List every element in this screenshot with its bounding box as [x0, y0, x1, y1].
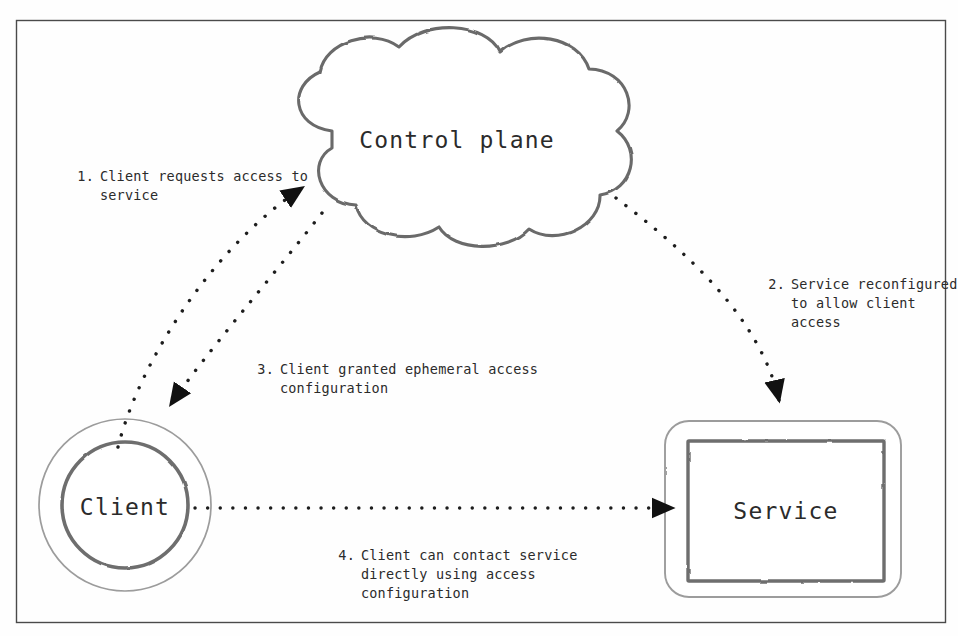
step-1-text: Client requests access to service [94, 167, 308, 205]
step-2-number: 2. [768, 275, 785, 294]
step-4-number: 4. [338, 546, 355, 565]
step-1-number: 1. [77, 167, 94, 186]
node-service: Service [665, 421, 901, 597]
step-4-text: Client can contact service directly usin… [355, 546, 578, 603]
step-2-label: 2.Service reconfigured to allow client a… [735, 256, 958, 351]
client-label: Client [80, 494, 170, 520]
step-3-number: 3. [257, 360, 274, 379]
step-3-text: Client granted ephemeral access configur… [274, 360, 538, 398]
step-2-text: Service reconfigured to allow client acc… [785, 275, 958, 332]
node-client: Client [39, 419, 211, 591]
step-1-label: 1.Client requests access to service [44, 148, 308, 224]
service-label: Service [733, 498, 838, 524]
node-control-plane: Control plane [299, 28, 632, 247]
control-plane-label: Control plane [359, 127, 555, 153]
step-4-label: 4.Client can contact service directly us… [305, 527, 578, 622]
diagram-canvas: Control plane Client Service 1.Client re… [0, 0, 958, 636]
step-3-label: 3.Client granted ephemeral access config… [224, 341, 538, 417]
